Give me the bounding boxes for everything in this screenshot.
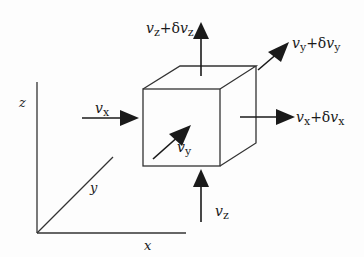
y-axis-label: y (89, 180, 98, 195)
z-axis-label: z (18, 95, 26, 110)
vz-inflow-label: vz (215, 203, 229, 222)
fluid-element-diagram: z y x vx vx+δvx vz+δvz vz (0, 0, 364, 257)
cube-top-face (143, 66, 256, 89)
cube-side-face (220, 66, 256, 166)
vx-outflow-arrowhead (276, 109, 295, 125)
x-axis-label: x (144, 238, 152, 253)
vy-inflow-label: vy (177, 139, 192, 158)
vy-outflow-label: vy+δvy (292, 35, 341, 54)
diagram-canvas: z y x vx vx+δvx vz+δvz vz (0, 0, 364, 257)
fluid-element-cube (143, 66, 256, 166)
vz-outflow-label: vz+δvz (146, 20, 194, 39)
vx-inflow-label: vx (95, 100, 110, 119)
vx-outflow-label: vx+δvx (296, 109, 345, 128)
y-axis (37, 157, 113, 233)
vz-inflow-arrowhead (193, 169, 209, 187)
coordinate-axes (37, 82, 186, 233)
vz-outflow-arrowhead (193, 22, 209, 39)
vx-inflow-arrowhead (120, 110, 139, 126)
